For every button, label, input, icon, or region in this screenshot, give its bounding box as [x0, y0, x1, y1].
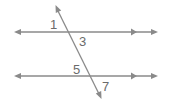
parallel-marker-icon: [131, 29, 137, 36]
angle-label-3: 3: [79, 34, 86, 49]
arrow-right-icon: [151, 29, 158, 35]
bottom-parallel-line: [14, 73, 158, 80]
angle-label-7: 7: [102, 79, 109, 94]
parallel-lines-diagram: 1 3 5 7: [0, 0, 170, 112]
arrow-left-icon: [14, 29, 21, 35]
angle-label-1: 1: [50, 17, 57, 32]
parallel-marker-icon: [131, 73, 137, 80]
arrow-left-icon: [14, 73, 21, 79]
arrow-right-icon: [151, 73, 158, 79]
transversal-line: [56, 5, 102, 99]
angle-label-5: 5: [73, 62, 80, 77]
